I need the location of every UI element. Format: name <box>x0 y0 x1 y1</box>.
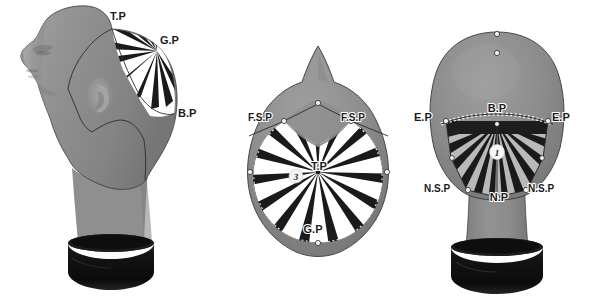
back-stand <box>451 238 543 294</box>
label-bp-back: B.P <box>488 102 506 114</box>
back-badge-1: 1 <box>490 145 505 160</box>
top-view: 3 F.S.P F.S.P T.P G.P <box>230 0 410 298</box>
back-view: 1 <box>410 0 597 298</box>
label-ep-left: E.P <box>414 111 432 123</box>
label-gp-side: G.P <box>160 34 179 46</box>
label-tp-side: T.P <box>110 10 126 22</box>
label-ep-right: E.P <box>552 111 570 123</box>
side-view-svg: T.P G.P B.P <box>0 0 200 298</box>
top-view-svg: 3 F.S.P F.S.P T.P G.P <box>230 0 410 298</box>
back-view-svg: 1 <box>410 0 597 298</box>
label-bp-side: B.P <box>178 107 196 119</box>
label-fsp-right: F.S.P <box>341 112 365 123</box>
top-badge-3: 3 <box>289 169 303 183</box>
label-tp-top: T.P <box>311 160 327 172</box>
label-fsp-left: F.S.P <box>248 112 272 123</box>
head-sectioning-diagram: T.P G.P B.P <box>0 0 597 298</box>
label-nsp-left: N.S.P <box>424 183 450 194</box>
label-gp-top: G.P <box>304 223 323 235</box>
side-stand <box>68 234 154 290</box>
side-profile-view: T.P G.P B.P <box>0 0 200 298</box>
top-badge-3-text: 3 <box>293 172 299 182</box>
label-np-center: N.P <box>490 191 508 203</box>
side-ear <box>87 78 113 116</box>
label-nsp-right: N.S.P <box>528 183 554 194</box>
back-badge-1-text: 1 <box>495 148 500 158</box>
